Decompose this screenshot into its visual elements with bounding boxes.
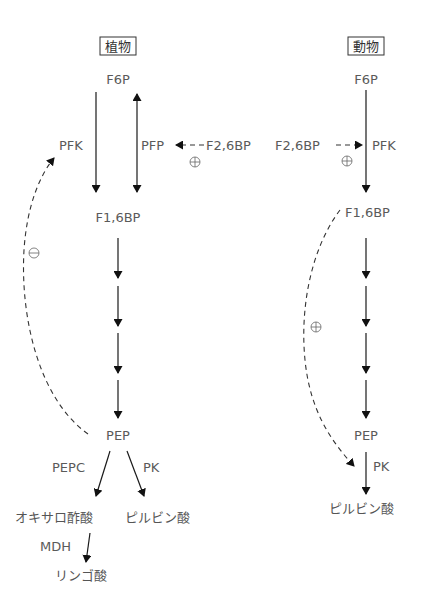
plant-pk-label: PK: [143, 460, 160, 475]
animal-f16bp-feedforward-arrow: [304, 210, 354, 466]
animal-pathway: 動物 F6P PFK F2,6BP F1,6BP PEP PK ピルビン酸: [275, 37, 396, 516]
plant-malate-label: リンゴ酸: [55, 568, 107, 583]
animal-plus-icon: [342, 156, 352, 166]
plant-pep-label: PEP: [106, 428, 130, 443]
plant-pyruvate-label: ピルビン酸: [125, 510, 190, 525]
plant-pathway: 植物 F6P PFK PFP F2,6BP F1,6BP PEP: [15, 37, 251, 583]
plant-pepc-label: PEPC: [52, 460, 85, 475]
plant-pep-feedback-arrow: [24, 158, 88, 434]
animal-header: 動物: [353, 39, 379, 54]
animal-f16bp-label: F1,6BP: [345, 205, 390, 220]
plant-pepc-arrow: [96, 451, 110, 496]
plant-f6p-label: F6P: [106, 72, 130, 87]
plant-plus-icon: [190, 157, 200, 167]
plant-pfp-label: PFP: [141, 138, 164, 153]
animal-pfk-label: PFK: [372, 138, 396, 153]
plant-pfk-label: PFK: [59, 138, 83, 153]
animal-pyruvate-label: ピルビン酸: [329, 501, 394, 516]
plant-pk-arrow: [127, 451, 144, 496]
plant-header: 植物: [105, 39, 131, 54]
animal-pep-label: PEP: [354, 428, 378, 443]
plant-minus-icon: [29, 248, 39, 258]
animal-f6p-label: F6P: [354, 72, 378, 87]
plant-oxaloacetate-label: オキサロ酢酸: [15, 510, 93, 525]
glycolysis-regulation-diagram: 植物 F6P PFK PFP F2,6BP F1,6BP PEP: [0, 0, 426, 605]
plant-mdh-label: MDH: [40, 539, 71, 554]
plant-mdh-arrow: [86, 533, 90, 562]
animal-f26bp-label: F2,6BP: [275, 138, 320, 153]
plant-f26bp-label: F2,6BP: [206, 138, 251, 153]
plant-f16bp-label: F1,6BP: [96, 210, 141, 225]
animal-pk-label: PK: [373, 459, 390, 474]
animal-plus-icon-2: [311, 322, 321, 332]
